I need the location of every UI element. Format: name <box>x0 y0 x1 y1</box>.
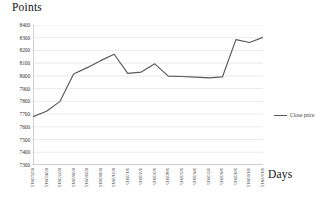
x-axis-tick-label: 8/28/2015 <box>71 168 76 187</box>
x-axis-tick-label: 9/5/2015 <box>179 168 184 185</box>
x-axis-tick-label: 9/4/2015 <box>165 168 170 185</box>
x-axis-tick-label: 8/30/2015 <box>98 168 103 187</box>
y-axis-tick-label: 8200 <box>20 47 30 53</box>
y-axis-tick-label: 8000 <box>20 73 30 79</box>
x-axis-tick-label: 8/27/2015 <box>57 168 62 187</box>
x-axis-tick-label: 9/2/2015 <box>138 168 143 185</box>
x-axis-tick-label: 8/29/2015 <box>84 168 89 187</box>
y-axis-tick-label: 8100 <box>20 60 30 66</box>
y-axis-tick-label: 8400 <box>20 22 30 28</box>
y-axis-title: Points <box>12 1 42 13</box>
x-axis-tick-label: 9/9/2015 <box>233 168 238 185</box>
x-axis-tick-label: 8/31/2015 <box>111 168 116 187</box>
x-axis-tick-label: 8/26/2015 <box>44 168 49 187</box>
y-axis-tick-label: 7300 <box>20 162 30 168</box>
y-axis-tick-label: 7400 <box>20 149 30 155</box>
plot-svg <box>33 25 263 165</box>
x-axis-tick-label: 9/10/2015 <box>246 168 251 187</box>
x-axis-tick-label: 9/3/2015 <box>152 168 157 185</box>
y-axis-tick-label: 7700 <box>20 111 30 117</box>
x-axis-tick-label: 9/8/2015 <box>219 168 224 185</box>
legend-entry-label: Close price <box>290 112 314 118</box>
x-axis-tick-label: 9/11/2015 <box>260 168 265 187</box>
series-line <box>33 37 263 116</box>
y-axis-tick-label: 8300 <box>20 35 30 41</box>
x-axis-title: Days <box>268 168 292 180</box>
line-chart: Points Days 8400830082008100800079007800… <box>0 0 333 212</box>
y-axis-tick-label: 7600 <box>20 124 30 130</box>
x-axis-tick-label: 9/7/2015 <box>206 168 211 185</box>
y-axis-tick-label: 7800 <box>20 98 30 104</box>
x-axis-tick-label: 9/1/2015 <box>125 168 130 185</box>
y-axis-tick-label: 7500 <box>20 137 30 143</box>
x-axis-tick-label: 8/25/2015 <box>30 168 35 187</box>
x-axis-tick-label: 9/6/2015 <box>192 168 197 185</box>
legend: Close price <box>274 112 314 118</box>
y-axis-tick-label: 7900 <box>20 86 30 92</box>
plot-area: 8400830082008100800079007800770076007500… <box>33 25 263 165</box>
legend-line-swatch <box>274 115 287 116</box>
